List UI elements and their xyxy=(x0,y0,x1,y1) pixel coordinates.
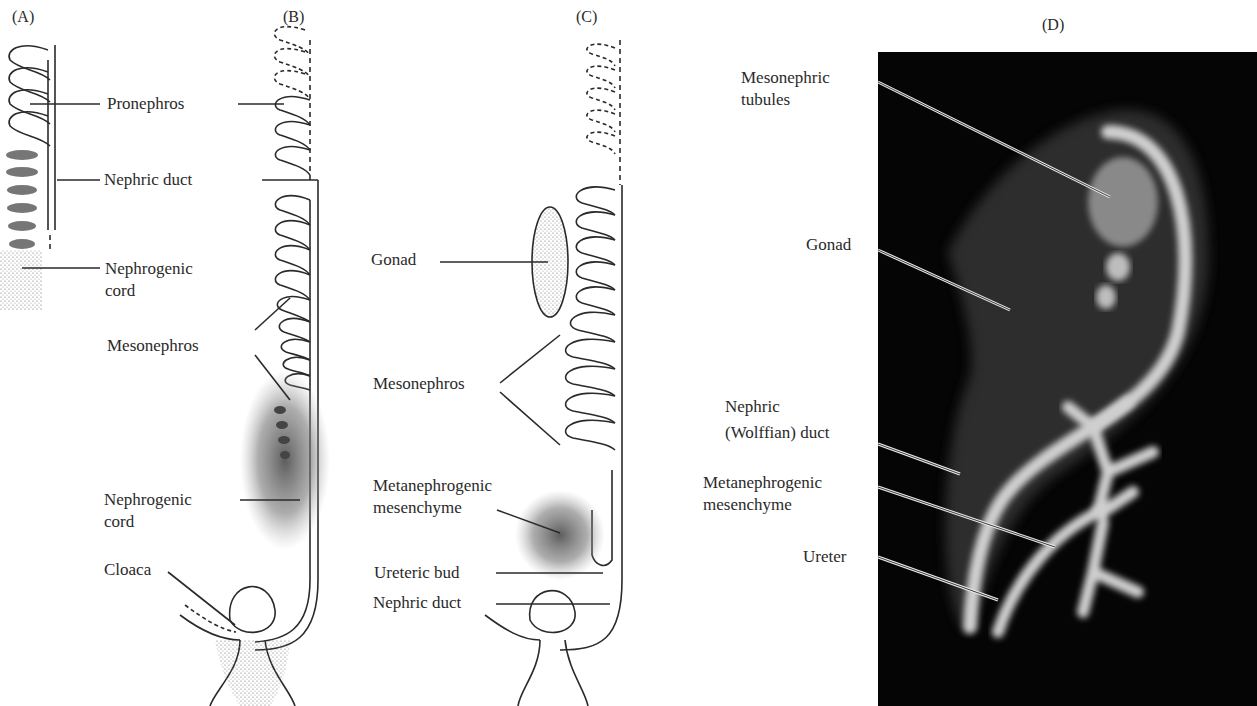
label-gonad-d: Gonad xyxy=(806,234,851,256)
label-mesonephric-tubules: Mesonephric tubules xyxy=(741,67,830,111)
label-ureter: Ureter xyxy=(803,546,846,568)
label-nephric-wolffian-duct: Nephric (Wolffian) duct xyxy=(725,396,830,444)
panel-d-leader-lines xyxy=(0,0,1257,706)
label-metanephrogenic-d: Metanephrogenic mesenchyme xyxy=(703,472,822,516)
